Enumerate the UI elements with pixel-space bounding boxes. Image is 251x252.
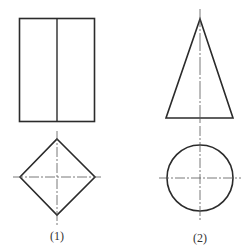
figure-2-front-view: [166, 9, 233, 123]
figure-1-label: (1): [50, 229, 64, 243]
figure-1-front-view: [20, 19, 95, 122]
figure-2-top-view: [159, 126, 241, 221]
figure-2-label: (2): [193, 231, 207, 245]
figure-1-top-view: [13, 131, 101, 226]
triangle-outline: [166, 19, 233, 118]
orthographic-projection-diagram: (1) (2): [0, 0, 251, 252]
